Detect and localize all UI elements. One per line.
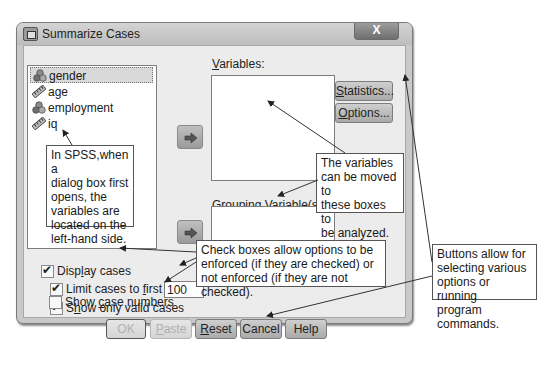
cancel-button[interactable]: Cancel: [240, 319, 282, 339]
limit-cases-label[interactable]: Limit cases to first: [66, 282, 162, 296]
show-case-numbers-checkbox[interactable]: [49, 296, 62, 309]
list-item-gender[interactable]: gender: [30, 67, 153, 83]
close-icon: X: [372, 23, 380, 37]
help-button[interactable]: Help: [285, 319, 327, 339]
scale-variable-icon: [32, 117, 46, 130]
list-item-employment[interactable]: employment: [30, 100, 153, 116]
title-bar[interactable]: Summarize Cases X: [17, 23, 412, 45]
nominal-variable-icon: [33, 69, 47, 82]
ok-button[interactable]: OK: [106, 319, 146, 339]
nominal-variable-icon: [32, 101, 46, 114]
show-case-numbers-label[interactable]: Show case numbers: [65, 295, 174, 309]
arrow-right-icon: [184, 132, 198, 144]
list-item-iq[interactable]: iq: [30, 116, 153, 132]
arrow-right-icon: [184, 227, 198, 239]
callout-target-boxes: The variables can be moved to these boxe…: [316, 153, 404, 213]
close-button[interactable]: X: [354, 23, 399, 40]
callout-checkboxes: Check boxes allow options to be enforced…: [196, 240, 386, 287]
options-button[interactable]: Options...: [335, 103, 393, 123]
reset-button[interactable]: Reset: [195, 319, 237, 339]
scale-variable-icon: [32, 85, 46, 98]
limit-cases-checkbox[interactable]: [50, 283, 63, 296]
display-cases-label[interactable]: Display cases: [57, 264, 131, 278]
callout-buttons: Buttons allow for selecting various opti…: [432, 244, 537, 300]
display-cases-checkbox[interactable]: [41, 265, 54, 278]
dialog-app-icon: [23, 27, 38, 41]
paste-button[interactable]: Paste: [150, 319, 192, 339]
statistics-button[interactable]: Statistics...: [335, 81, 393, 101]
move-to-variables-button[interactable]: [177, 125, 203, 149]
list-item-age[interactable]: age: [30, 84, 153, 100]
variables-label: Variables:: [212, 57, 264, 71]
callout-left-panel: In SPSS,when a dialog box first opens, t…: [46, 145, 134, 227]
dialog-title: Summarize Cases: [42, 27, 140, 41]
